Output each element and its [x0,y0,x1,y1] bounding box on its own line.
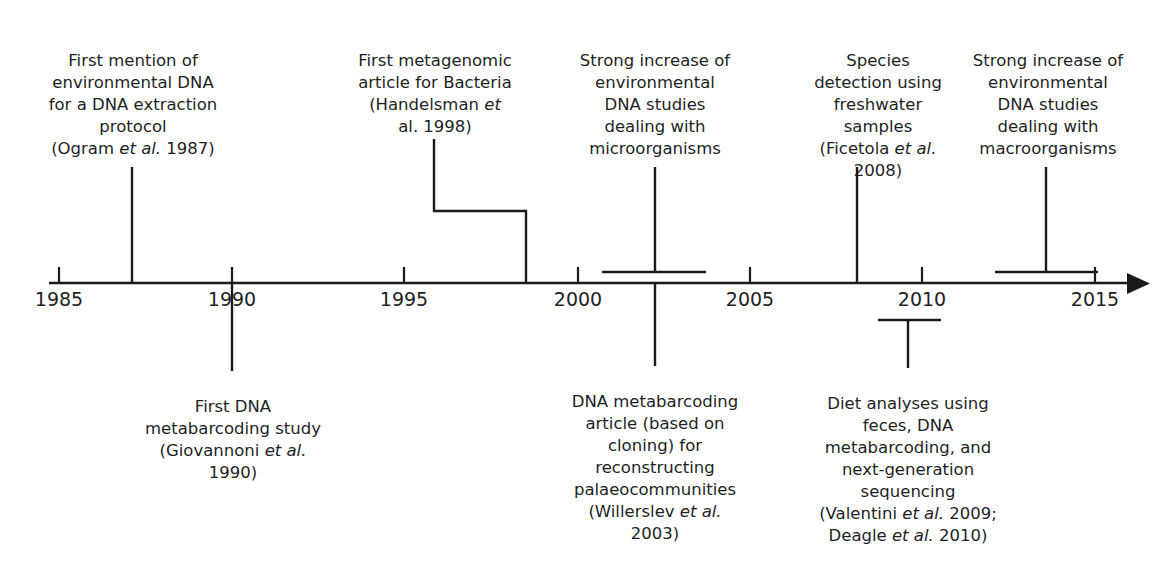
event-note-willerslev-2003: DNA metabarcoding article (based on clon… [541,369,769,545]
event-tail-ogram-1987: 1987) [161,139,215,158]
event-note-giovannoni-1990: First DNA metabarcoding study (Giovannon… [124,374,342,484]
event-note-ogram-1987: First mention of environmental DNA for a… [24,28,242,160]
axis-label-1985: 1985 [35,290,83,309]
event-tail-handelsman-1998: al. 1998) [398,117,472,136]
event-note-microorganisms: Strong increase of environmental DNA stu… [560,28,750,160]
event-note-ficetola-2008: Species detection using freshwater sampl… [790,28,966,182]
event-note-macroorganisms: Strong increase of environmental DNA stu… [953,28,1143,160]
timeline-arrow-head [1127,273,1150,294]
axis-label-2015: 2015 [1071,290,1119,309]
axis-label-2000: 2000 [554,290,602,309]
connector-handelsman-1998 [434,139,526,283]
event-italic-handelsman-1998: et [484,95,501,114]
event-tail-willerslev-2003: 2003) [631,524,679,543]
event-note-handelsman-1998: First metagenomic article for Bacteria (… [333,28,537,138]
event-text-macroorganisms: Strong increase of environmental DNA stu… [973,51,1123,158]
axis-label-1990: 1990 [208,290,256,309]
timeline-figure: 1985 1990 1995 2000 2005 2010 2015 First… [0,0,1168,574]
event-italic-willerslev-2003: et al. [680,502,722,521]
axis-label-2005: 2005 [726,290,774,309]
event-italic-giovannoni-1990: et al. [265,441,307,460]
event-italic-ogram-1987: et al. [119,139,161,158]
event-tail-ficetola-2008: 2008) [854,161,902,180]
event-tail-giovannoni-1990: 1990) [209,463,257,482]
event-italic-valentini-deagle: et al. [902,504,944,523]
axis-label-1995: 1995 [380,290,428,309]
event-note-valentini-deagle: Diet analyses using feces, DNA metabarco… [793,371,1023,547]
event-italic-ficetola-2008: et al. [895,139,937,158]
event-text-microorganisms: Strong increase of environmental DNA stu… [580,51,730,158]
event-tail2-valentini-deagle: 2010) [934,526,988,545]
event-italic2-valentini-deagle: et al. [892,526,934,545]
axis-label-2010: 2010 [898,290,946,309]
